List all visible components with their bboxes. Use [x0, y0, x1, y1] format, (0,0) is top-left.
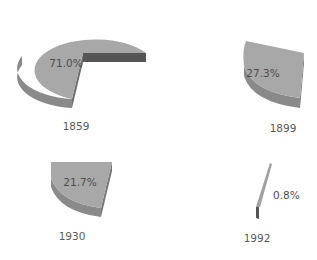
pie-slice-cut-face [83, 53, 146, 62]
pie-value-label: 71.0% [49, 57, 82, 69]
pie-category-label: 1899 [270, 122, 297, 134]
pie-value-label: 21.7% [63, 176, 96, 188]
pie-slice-top [256, 163, 272, 207]
pie-panel-1992: 0.8% 1992 [244, 163, 300, 244]
pie-value-label: 27.3% [246, 67, 279, 79]
pie-value-label: 0.8% [273, 189, 300, 201]
pie-panel-1899: 27.3% 1899 [243, 41, 304, 134]
pie-panel-1859: 71.0% 1859 [17, 39, 146, 132]
pie-category-label: 1992 [244, 232, 271, 244]
pie-slice-side [256, 207, 259, 219]
chart-canvas: 71.0% 1859 27.3% 1899 21.7% 1930 0.8% 19… [0, 0, 317, 260]
pie-category-label: 1930 [59, 230, 86, 242]
pie-panel-1930: 21.7% 1930 [51, 162, 112, 242]
pie-category-label: 1859 [63, 120, 90, 132]
pie-slice-top [35, 39, 146, 99]
